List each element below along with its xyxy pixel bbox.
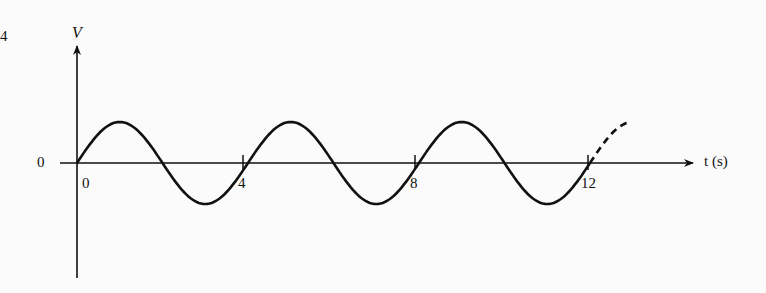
y-zero-label: 0	[37, 154, 45, 171]
x-tick-label-12: 12	[581, 175, 596, 192]
x-tick-label-0: 0	[82, 175, 90, 192]
corner-mark: 4	[0, 28, 8, 45]
y-axis-label: V	[72, 24, 82, 42]
waveform-chart	[0, 0, 766, 293]
waveform-dashed	[590, 122, 631, 163]
x-axis-label: t (s)	[704, 153, 728, 170]
x-tick-label-8: 8	[410, 175, 418, 192]
x-tick-label-4: 4	[238, 175, 246, 192]
